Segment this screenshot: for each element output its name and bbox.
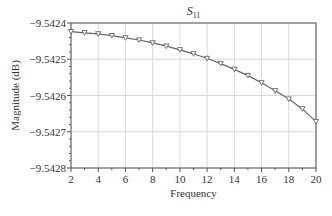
x-tick-label: 12 <box>202 173 213 185</box>
y-tick-label: −9.5425 <box>30 53 67 65</box>
x-tick-label: 10 <box>174 173 186 185</box>
data-series <box>68 30 318 125</box>
x-tick-label: 14 <box>229 173 241 185</box>
y-tick-label: −9.5426 <box>30 90 67 102</box>
y-tick-label: −9.5428 <box>30 162 67 174</box>
x-axis-title: Frequency <box>170 187 217 199</box>
x-tick-label: 20 <box>311 173 323 185</box>
x-tick-label: 4 <box>95 173 101 185</box>
y-axis-title: Magnitude (dB) <box>9 60 22 131</box>
triangle-marker-icon <box>245 73 250 78</box>
x-tick-label: 6 <box>123 173 129 185</box>
x-axis: 2468101214161820 <box>68 168 322 185</box>
triangle-marker-icon <box>313 119 318 124</box>
y-tick-label: −9.5427 <box>30 126 67 138</box>
triangle-marker-icon <box>232 67 237 72</box>
x-tick-label: 2 <box>68 173 74 185</box>
chart-title-subscript: 11 <box>193 11 201 20</box>
s11-chart: −9.5424−9.5425−9.5426−9.5427−9.5428 2468… <box>0 0 332 216</box>
grid-lines <box>71 23 316 168</box>
y-axis: −9.5424−9.5425−9.5426−9.5427−9.5428 <box>30 17 71 174</box>
y-tick-label: −9.5424 <box>30 17 67 29</box>
x-tick-label: 8 <box>150 173 156 185</box>
series-line <box>71 32 316 122</box>
chart-title: S11 <box>187 4 201 20</box>
x-tick-label: 18 <box>283 173 295 185</box>
triangle-marker-icon <box>218 61 223 66</box>
x-tick-label: 16 <box>256 173 268 185</box>
